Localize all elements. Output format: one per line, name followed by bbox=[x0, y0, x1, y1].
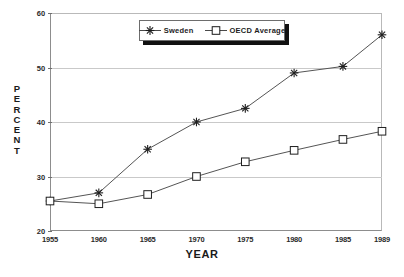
series-sweden bbox=[46, 31, 387, 206]
data-point-asterisk bbox=[192, 118, 201, 127]
y-tick-label: 40 bbox=[37, 118, 45, 127]
x-tick-label: 1980 bbox=[286, 235, 302, 244]
data-point-square bbox=[193, 173, 201, 181]
y-axis-title: PERCENT bbox=[10, 84, 24, 156]
data-point-asterisk bbox=[290, 69, 299, 78]
x-axis-title: YEAR bbox=[0, 248, 404, 260]
data-point-square bbox=[290, 147, 298, 155]
data-point-square bbox=[241, 158, 249, 166]
legend-box: Sweden OECD Average bbox=[139, 20, 285, 41]
x-tick-label: 1965 bbox=[140, 235, 156, 244]
square-marker-icon bbox=[205, 25, 227, 36]
legend[interactable]: Sweden OECD Average bbox=[139, 20, 285, 41]
series-line bbox=[50, 35, 382, 201]
data-series-layer bbox=[50, 13, 382, 231]
y-axis-title-letter: T bbox=[10, 146, 24, 156]
y-tick bbox=[48, 231, 52, 232]
chart-root: PERCENT 2030405060 195519601965197019751… bbox=[0, 0, 404, 277]
legend-item-sweden[interactable]: Sweden bbox=[139, 25, 194, 36]
x-tick-label: 1960 bbox=[91, 235, 107, 244]
data-point-asterisk bbox=[378, 31, 387, 40]
series-oecd-average bbox=[46, 127, 386, 207]
x-tick-label: 1985 bbox=[335, 235, 351, 244]
x-tick-label: 1989 bbox=[374, 235, 390, 244]
y-tick-label: 30 bbox=[37, 172, 45, 181]
data-point-square bbox=[378, 127, 386, 135]
x-tick-label: 1970 bbox=[189, 235, 205, 244]
x-tick-label: 1975 bbox=[237, 235, 253, 244]
data-point-square bbox=[144, 191, 152, 199]
data-point-square bbox=[339, 136, 347, 144]
data-point-asterisk bbox=[241, 104, 250, 113]
legend-item-oecd-average[interactable]: OECD Average bbox=[205, 25, 286, 36]
legend-label-sweden: Sweden bbox=[164, 26, 194, 35]
chart-title-cropped bbox=[0, 0, 404, 7]
plot-area: 2030405060 19551960196519701975198019851… bbox=[50, 13, 382, 231]
y-tick-label: 60 bbox=[37, 9, 45, 18]
data-point-asterisk bbox=[95, 189, 104, 198]
data-point-asterisk bbox=[339, 62, 348, 71]
legend-label-oecd-average: OECD Average bbox=[230, 26, 286, 35]
y-tick-label: 50 bbox=[37, 63, 45, 72]
data-point-square bbox=[46, 197, 54, 205]
data-point-square bbox=[95, 200, 103, 208]
data-point-asterisk bbox=[143, 145, 152, 154]
asterisk-marker-icon bbox=[139, 25, 161, 36]
x-tick-label: 1955 bbox=[42, 235, 58, 244]
